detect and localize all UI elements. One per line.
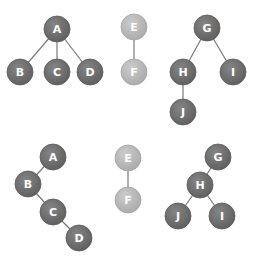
node-i: I [220, 59, 246, 85]
node-label: J [180, 106, 185, 119]
node-label: D [74, 232, 83, 245]
node-i: I [209, 203, 235, 229]
tree-bottom-right: GHJI [165, 144, 235, 229]
node-label: G [213, 151, 222, 164]
tree-top-right: GHIJ [170, 15, 246, 125]
node-label: I [220, 210, 224, 223]
node-label: C [53, 66, 61, 79]
node-c: C [40, 199, 66, 225]
node-j: J [165, 203, 191, 229]
node-label: H [195, 179, 204, 192]
node-label: E [124, 152, 132, 165]
node-d: D [66, 225, 92, 251]
node-g: G [205, 144, 231, 170]
node-label: F [124, 194, 132, 207]
node-label: B [24, 178, 32, 191]
node-label: G [202, 22, 211, 35]
tree-top-left: ABCD [7, 16, 103, 85]
node-e: E [115, 145, 141, 171]
node-e: E [121, 14, 147, 40]
node-j: J [170, 99, 196, 125]
tree-bottom-left: ABCD [15, 144, 92, 251]
node-h: H [187, 172, 213, 198]
node-c: C [44, 59, 70, 85]
node-b: B [7, 59, 33, 85]
node-label: B [16, 66, 24, 79]
node-label: F [130, 66, 138, 79]
node-label: E [130, 21, 138, 34]
node-label: A [53, 23, 62, 36]
node-label: I [231, 66, 235, 79]
node-label: A [49, 151, 58, 164]
node-g: G [194, 15, 220, 41]
node-a: A [44, 16, 70, 42]
node-a: A [40, 144, 66, 170]
diagram-canvas: ABCDEFGHIJABCDEFGHJI [0, 0, 253, 256]
node-f: F [115, 187, 141, 213]
node-b: B [15, 171, 41, 197]
node-label: H [178, 66, 187, 79]
node-label: C [49, 206, 57, 219]
nodes-layer: ABCDEFGHIJABCDEFGHJI [7, 14, 246, 251]
node-f: F [121, 59, 147, 85]
node-h: H [170, 59, 196, 85]
node-label: J [175, 210, 180, 223]
node-d: D [77, 59, 103, 85]
node-label: D [85, 66, 94, 79]
